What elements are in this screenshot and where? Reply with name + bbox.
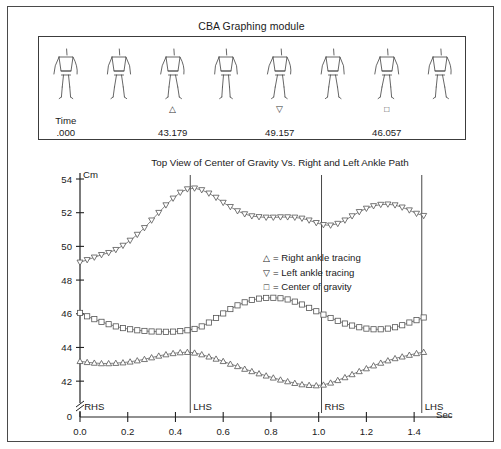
y-tick-label: 50 xyxy=(61,241,72,252)
data-point-marker xyxy=(227,361,233,366)
time-value: 49.157 xyxy=(240,127,320,139)
stick-figure xyxy=(362,41,412,103)
page-frame: CBA Graphing module Time.000△ 43.179▽ 49… xyxy=(7,6,494,442)
stick-figure xyxy=(148,41,198,103)
time-marker-symbol: △ xyxy=(133,103,213,115)
data-point-marker xyxy=(385,326,390,331)
stick-figure xyxy=(201,41,251,103)
data-point-marker xyxy=(363,366,369,371)
data-point-marker xyxy=(264,295,269,300)
data-point-marker xyxy=(128,327,133,332)
data-point-marker xyxy=(242,366,248,371)
legend-label: = Center of gravity xyxy=(273,281,352,292)
legend-item: ▽= Left ankle tracing xyxy=(260,266,361,281)
time-value: 43.179 xyxy=(133,127,213,139)
data-point-marker xyxy=(199,188,205,193)
time-marker-symbol: □ xyxy=(347,103,427,115)
data-point-marker xyxy=(206,320,211,325)
time-marker-symbol xyxy=(26,103,106,115)
y-axis-zero-label: 0 xyxy=(67,411,72,422)
time-label-spacer xyxy=(240,115,320,127)
data-point-marker xyxy=(356,210,362,215)
data-point-marker xyxy=(392,325,397,330)
data-point-marker xyxy=(292,299,297,304)
data-point-marker xyxy=(99,319,104,324)
data-point-marker xyxy=(106,322,111,327)
data-point-marker xyxy=(206,191,212,196)
data-point-marker xyxy=(120,243,126,248)
event-label: LHS xyxy=(193,401,212,412)
data-point-marker xyxy=(120,325,125,330)
data-point-marker xyxy=(156,329,161,334)
data-point-marker xyxy=(328,223,334,228)
data-point-marker xyxy=(184,187,190,192)
data-point-marker xyxy=(235,303,240,308)
stick-figure xyxy=(255,41,305,103)
time-value: 46.057 xyxy=(347,127,427,139)
time-marker-row: Time.000△ 43.179▽ 49.157□ 46.057 xyxy=(39,103,465,139)
data-point-marker xyxy=(399,205,405,210)
data-point-marker xyxy=(349,371,355,376)
data-point-marker xyxy=(221,311,226,316)
data-point-marker xyxy=(364,326,369,331)
data-point-marker xyxy=(271,295,276,300)
x-tick-label: 1.2 xyxy=(360,426,373,437)
data-point-marker xyxy=(235,209,241,214)
x-tick-label: 0.2 xyxy=(121,426,134,437)
legend-label: = Right ankle tracing xyxy=(273,252,361,263)
time-marker-cell: Time.000 xyxy=(26,103,106,139)
data-point-marker xyxy=(113,324,118,329)
legend-symbol: ▽ xyxy=(260,266,273,281)
data-point-marker xyxy=(357,325,362,330)
data-point-marker xyxy=(421,315,426,320)
data-point-marker xyxy=(192,326,197,331)
x-tick-label: 0.6 xyxy=(217,426,230,437)
event-label: RHS xyxy=(84,401,104,412)
series-line xyxy=(80,188,424,262)
stick-figure xyxy=(94,41,144,103)
data-point-marker xyxy=(142,328,147,333)
data-point-marker xyxy=(227,204,233,209)
data-point-marker xyxy=(249,297,254,302)
x-tick-label: 0.0 xyxy=(73,426,86,437)
data-point-marker xyxy=(414,318,419,323)
data-point-marker xyxy=(342,321,347,326)
time-marker-cell: △ 43.179 xyxy=(133,103,213,139)
y-tick-label: 42 xyxy=(61,376,72,387)
legend-label: = Left ankle tracing xyxy=(273,267,354,278)
data-point-marker xyxy=(228,306,233,311)
data-point-marker xyxy=(77,358,83,363)
data-point-marker xyxy=(213,195,219,200)
data-point-marker xyxy=(363,206,369,211)
x-tick-label: 1.0 xyxy=(312,426,325,437)
data-point-marker xyxy=(371,363,377,368)
data-point-marker xyxy=(371,327,376,332)
data-point-marker xyxy=(378,327,383,332)
data-point-marker xyxy=(256,296,261,301)
data-point-marker xyxy=(356,368,362,373)
time-marker-cell: ▽ 49.157 xyxy=(240,103,320,139)
data-point-marker xyxy=(406,208,412,213)
data-point-marker xyxy=(328,315,333,320)
data-point-marker xyxy=(307,305,312,310)
data-point-marker xyxy=(135,328,140,333)
stick-figure-panel: Time.000△ 43.179▽ 49.157□ 46.057 xyxy=(38,36,466,140)
x-tick-label: 0.4 xyxy=(169,426,183,437)
data-point-marker xyxy=(342,374,348,379)
data-point-marker xyxy=(185,328,190,333)
data-point-marker xyxy=(85,314,90,319)
stick-figure xyxy=(308,41,358,103)
data-point-marker xyxy=(349,323,354,328)
data-point-marker xyxy=(92,317,97,322)
time-label-spacer xyxy=(133,115,213,127)
data-point-marker xyxy=(242,300,247,305)
event-label: RHS xyxy=(325,401,345,412)
time-marker-symbol: ▽ xyxy=(240,103,320,115)
legend-symbol: △ xyxy=(260,251,273,266)
data-point-marker xyxy=(178,329,183,334)
stick-figure xyxy=(41,41,91,103)
data-point-marker xyxy=(170,329,175,334)
y-tick-label: 48 xyxy=(61,275,72,286)
time-label-spacer xyxy=(347,115,427,127)
time-value: .000 xyxy=(26,127,106,139)
